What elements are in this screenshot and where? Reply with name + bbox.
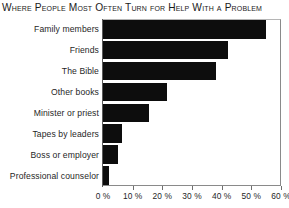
bar <box>103 145 118 164</box>
x-tick-mark <box>162 186 163 190</box>
bar-row <box>103 123 281 144</box>
category-label-row: Friends <box>0 40 99 61</box>
bar <box>103 83 167 102</box>
x-tick-mark <box>133 186 134 190</box>
bar <box>103 20 266 39</box>
bar <box>103 104 149 123</box>
category-label: Minister or priest <box>34 108 99 118</box>
bar <box>103 166 109 185</box>
bar <box>103 41 228 60</box>
category-label-row: Boss or employer <box>0 144 99 165</box>
x-tick-mark <box>192 186 193 190</box>
category-label-row: The Bible <box>0 61 99 82</box>
category-label-row: Other books <box>0 82 99 103</box>
bar-row <box>103 144 281 165</box>
bar-series <box>103 19 281 186</box>
x-tick-label: 50 % <box>242 191 262 201</box>
category-label-row: Family members <box>0 19 99 40</box>
bar <box>103 62 216 81</box>
category-label: Family members <box>34 24 99 34</box>
x-tick-mark <box>281 186 282 190</box>
category-label: Other books <box>51 87 99 97</box>
category-label: Tapes by leaders <box>32 129 99 139</box>
category-label-row: Professional counselor <box>0 165 99 186</box>
x-tick-label: 20 % <box>153 191 173 201</box>
category-label: Boss or employer <box>31 150 99 160</box>
category-label: Professional counselor <box>10 171 99 181</box>
category-label-row: Minister or priest <box>0 103 99 124</box>
bar <box>103 124 122 143</box>
bar-row <box>103 165 281 186</box>
bar-row <box>103 19 281 40</box>
bar-row <box>103 82 281 103</box>
x-tick-mark <box>251 186 252 190</box>
category-label: Friends <box>70 45 99 55</box>
bar-row <box>103 40 281 61</box>
category-label: The Bible <box>62 66 99 76</box>
y-axis-category-labels: Family membersFriendsThe BibleOther book… <box>0 19 99 186</box>
x-tick-label: 10 % <box>123 191 143 201</box>
x-tick-label: 0 % <box>96 191 111 201</box>
x-tick-label: 60 % <box>271 191 289 201</box>
chart-title: Where People Most Often Turn for Help Wi… <box>2 1 288 15</box>
x-tick-label: 40 % <box>212 191 232 201</box>
chart-page: Where People Most Often Turn for Help Wi… <box>0 0 289 208</box>
x-tick-mark <box>222 186 223 190</box>
bar-row <box>103 103 281 124</box>
bar-row <box>103 61 281 82</box>
x-axis-tick-labels: 0 %10 %20 %30 %40 %50 %60 % <box>0 191 289 205</box>
x-tick-label: 30 % <box>182 191 202 201</box>
category-label-row: Tapes by leaders <box>0 123 99 144</box>
